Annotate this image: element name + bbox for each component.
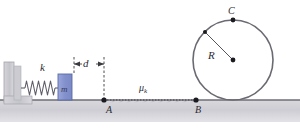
point-c-label: C <box>228 6 235 16</box>
friction-coefficient-subscript: k <box>144 87 147 95</box>
circle-center-dot <box>231 58 236 63</box>
dim-arrowhead-left <box>74 62 80 67</box>
friction-coefficient-label: μk <box>139 83 147 95</box>
point-a-label: A <box>106 105 112 115</box>
point-c-dot <box>231 18 236 23</box>
dim-arrowhead-right <box>98 62 104 67</box>
spring <box>21 81 58 95</box>
distance-d-label: d <box>83 58 89 69</box>
ground-base <box>0 100 300 122</box>
radius-label: R <box>208 50 215 61</box>
spring-constant-label: k <box>40 62 45 73</box>
ground <box>0 100 300 122</box>
distance-d-dimension <box>74 57 104 100</box>
circular-loop <box>193 18 273 103</box>
rough-surface-segment <box>104 99 196 102</box>
point-b-label: B <box>195 105 201 115</box>
left-wall-support <box>4 62 32 104</box>
point-b-dot <box>193 97 198 102</box>
wall-anchor-face <box>14 66 21 100</box>
physics-diagram: k m d A B C R μk <box>0 0 300 128</box>
point-a-dot <box>101 97 106 102</box>
spring-coils <box>25 81 55 95</box>
radius-edge-dot <box>203 30 207 34</box>
diagram-canvas <box>0 0 300 128</box>
block-mass-label: m <box>61 85 68 94</box>
